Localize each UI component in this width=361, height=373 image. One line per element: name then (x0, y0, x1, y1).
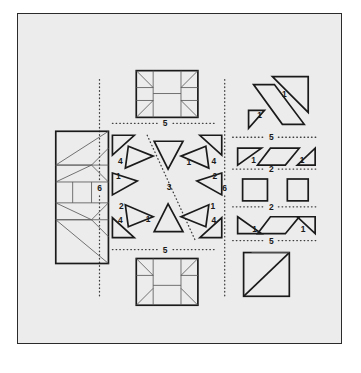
left-panel-diag-1 (56, 131, 109, 165)
left-panel-outline (56, 131, 109, 263)
figure-svg: 6 6 5 5 5 2 2 5 3 (18, 14, 341, 343)
center-triangle-right (197, 173, 222, 195)
label-divider-right-lower: 5 (269, 236, 274, 246)
left-panel-diag-8 (56, 220, 109, 264)
top-center-diag-tr (181, 71, 198, 88)
label-right-row1-left: 1 (251, 155, 256, 165)
label-center-right-upper: 2 (212, 171, 217, 181)
label-divider-left-vertical: 6 (97, 183, 102, 193)
center-triangle-top (154, 141, 183, 169)
bottom-center-diag-br (181, 288, 198, 305)
top-center-outline (136, 71, 198, 118)
left-panel-diag-5 (56, 203, 92, 220)
top-center-diag-tl (136, 71, 153, 88)
right-row1-triangle-left (238, 148, 262, 165)
dotted-dividers (99, 80, 316, 298)
label-center-left-lower: 2 (119, 201, 124, 211)
center-corner-triangle-bl (112, 218, 134, 238)
label-right-small-triangle: 1 (257, 110, 262, 120)
bottom-center-outline (136, 259, 198, 306)
top-center-rectangle (136, 71, 198, 118)
label-divider-bottom-horizontal: 5 (163, 245, 168, 255)
left-panel (56, 131, 109, 263)
figure-plate: 6 6 5 5 5 2 2 5 3 (17, 13, 342, 344)
right-row1-parallelogram (258, 148, 300, 165)
figure-wrapper: 6 6 5 5 5 2 2 5 3 (0, 0, 361, 373)
center-triangle-upper-right (181, 146, 209, 168)
right-row2-parallelogram (258, 217, 300, 234)
label-center-bl-outer: 4 (118, 215, 123, 225)
label-center-left-upper: 1 (116, 171, 121, 181)
left-panel-diag-3 (56, 165, 92, 182)
label-center-bottom-inner: 1 (146, 214, 151, 224)
left-panel-diag-6 (92, 203, 109, 220)
bottom-center-diag-bl (136, 288, 153, 305)
right-square-left (243, 179, 268, 201)
label-divider-top-horizontal: 5 (163, 118, 168, 128)
label-center-axis: 3 (167, 182, 172, 192)
label-right-row2-right: 1 (301, 224, 306, 234)
label-center-br-outer: 4 (211, 215, 216, 225)
left-panel-diag-2 (92, 148, 109, 165)
top-center-diag-br (181, 100, 198, 117)
center-corner-triangle-tr (200, 135, 222, 155)
label-divider-right-upper: 5 (269, 132, 274, 142)
label-right-row1-right: 1 (300, 155, 305, 165)
right-square-right (287, 179, 308, 201)
bottom-center-diag-tr (181, 259, 198, 276)
right-row2-triangle-left (238, 217, 262, 234)
label-center-right-lower: 1 (210, 201, 215, 211)
label-center-tl-outer: 4 (118, 156, 123, 166)
right-panel: 1 1 1 1 1 1 (238, 77, 316, 297)
bottom-center-rectangle (136, 259, 198, 306)
center-triangle-bottom (154, 204, 183, 232)
label-center-tr-outer: 4 (211, 156, 216, 166)
label-divider-right-midlower: 2 (269, 202, 274, 212)
center-corner-triangle-tl (112, 135, 134, 155)
bottom-center-diag-tl (136, 259, 153, 276)
label-divider-right-vertical: 6 (222, 183, 227, 193)
label-center-top-inner: 1 (187, 157, 192, 167)
label-right-row2-left: 1 (252, 224, 257, 234)
top-center-diag-bl (136, 100, 153, 117)
center-triangle-lower-right (181, 205, 209, 227)
right-bottom-square-diagonal (244, 253, 290, 297)
center-triangle-upper-left (125, 146, 153, 168)
label-right-big-triangle: 1 (282, 89, 287, 99)
